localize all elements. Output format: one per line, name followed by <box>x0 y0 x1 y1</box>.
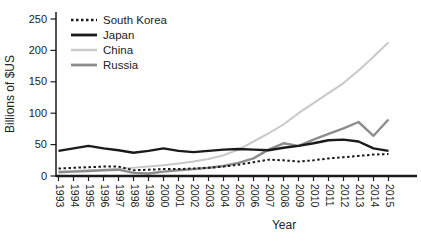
legend-label-japan: Japan <box>103 29 134 41</box>
x-tick-label: 1996 <box>99 184 111 208</box>
x-tick-label: 2004 <box>219 184 231 208</box>
y-tick-label: 150 <box>29 75 47 87</box>
axes: 0501001502002501993199419951996199719981… <box>29 12 417 208</box>
x-tick-label: 2008 <box>279 184 291 208</box>
x-tick-label: 1993 <box>54 184 66 208</box>
y-axis-title: Billions of $US <box>3 55 17 133</box>
series-line-south-korea <box>59 154 389 170</box>
x-tick-label: 2000 <box>159 184 171 208</box>
y-tick-label: 200 <box>29 44 47 56</box>
x-tick-label: 2003 <box>204 184 216 208</box>
series-line-russia <box>59 120 389 174</box>
x-tick-label: 2011 <box>324 184 336 207</box>
x-tick-label: 2009 <box>294 184 306 208</box>
x-tick-label: 2005 <box>234 184 246 208</box>
legend-label-china: China <box>103 44 134 56</box>
series-line-japan <box>59 140 389 153</box>
x-tick-label: 2010 <box>309 184 321 208</box>
x-tick-label: 2006 <box>249 184 261 208</box>
x-axis-title: Year <box>272 218 296 232</box>
legend: South KoreaJapanChinaRussia <box>71 14 168 71</box>
line-chart-figure: 0501001502002501993199419951996199719981… <box>0 0 421 247</box>
x-tick-label: 2013 <box>354 184 366 208</box>
x-tick-label: 2014 <box>369 184 381 208</box>
x-tick-label: 1999 <box>144 184 156 208</box>
legend-label-south-korea: South Korea <box>103 14 168 26</box>
x-tick-label: 1997 <box>114 184 126 208</box>
x-tick-label: 2001 <box>174 184 186 208</box>
x-tick-label: 2012 <box>339 184 351 208</box>
y-tick-label: 50 <box>35 138 47 150</box>
x-tick-label: 1995 <box>84 184 96 208</box>
legend-label-russia: Russia <box>103 59 139 71</box>
y-tick-label: 250 <box>29 13 47 25</box>
x-tick-label: 2002 <box>189 184 201 208</box>
x-tick-label: 1998 <box>129 184 141 208</box>
chart-canvas: 0501001502002501993199419951996199719981… <box>0 0 421 247</box>
x-tick-label: 1994 <box>69 184 81 208</box>
x-tick-label: 2007 <box>264 184 276 208</box>
y-tick-label: 100 <box>29 107 47 119</box>
y-tick-label: 0 <box>41 170 47 182</box>
x-tick-label: 2015 <box>384 184 396 208</box>
